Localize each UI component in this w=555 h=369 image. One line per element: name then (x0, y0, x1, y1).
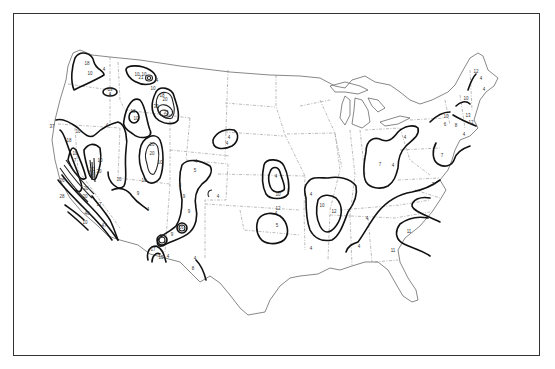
contour-label: 15 (159, 234, 165, 239)
contour-label: 47 (101, 223, 107, 228)
contour-label: 26 (59, 178, 65, 183)
contour-label: 17 (150, 247, 156, 252)
contour-label: 5 (276, 223, 279, 228)
contour-label: 10 (275, 192, 281, 197)
contour-label: 35 (163, 110, 169, 115)
contour-label: 10 (87, 71, 93, 76)
contour-lines (56, 53, 476, 280)
contour-label: 4 (392, 163, 395, 168)
contour-label: 30 (88, 171, 94, 176)
contour-label: 4 (147, 207, 150, 212)
contour-label: 20 (96, 169, 102, 174)
contour-label: 9 (171, 232, 174, 237)
contour-label: 40 (84, 211, 90, 216)
contour-label: 16 (178, 225, 184, 230)
contour-label: 10 (133, 116, 139, 121)
contour-label: 4 (228, 135, 231, 140)
contour-label: 10 (72, 151, 78, 156)
contour-label: 7 (379, 162, 382, 167)
contour-label: 12 (468, 120, 474, 125)
contour-label: 4 (156, 78, 159, 83)
contour-label: 5 (194, 168, 197, 173)
contour-label: 10 (463, 96, 469, 101)
contour-label: 4 (480, 76, 483, 81)
contour-label: 10 (150, 86, 156, 91)
contour-label: 11 (391, 248, 396, 253)
contour-label: 18 (66, 138, 72, 143)
contour-label: 4 (103, 67, 106, 72)
contour-label: 4 (275, 174, 278, 179)
contour-label: 10 (157, 160, 163, 165)
contour-label: 4 (358, 244, 361, 249)
contour-label: 12 (473, 69, 479, 74)
contour-label: 9 (183, 194, 186, 199)
contour-label: 15 (158, 255, 164, 260)
michigan-lower (352, 98, 370, 128)
contour-label: 10 (75, 129, 81, 134)
contour-label: 4 (217, 194, 220, 199)
contour-label: 17 (96, 202, 102, 207)
lake-erie (380, 116, 410, 126)
contour-label: 10 (97, 158, 103, 163)
contour-label: 4 (463, 132, 466, 137)
contour-label: 30 (153, 104, 159, 109)
contour-label: 13 (465, 113, 471, 118)
contour-label: 20 (149, 151, 155, 156)
contour-label: 20 (149, 142, 155, 147)
contour-label: 10 (116, 177, 122, 182)
contour-label: 4 (483, 87, 486, 92)
contour-label: 7 (441, 153, 444, 158)
contour-label: 8 (179, 183, 182, 188)
contour-label: 28 (59, 194, 65, 199)
contour-label: 18 (84, 61, 90, 66)
contour-label: 18 (130, 109, 136, 114)
contour-label: 4 (404, 135, 407, 140)
contour-label: 10 (141, 72, 147, 77)
contour-label: 10 (82, 220, 88, 225)
contour-label: 6 (444, 122, 447, 127)
lake-michigan (340, 96, 350, 125)
contour-label: 9 (188, 209, 191, 214)
contour-label: 20 (162, 97, 168, 102)
contour-label: 4 (226, 141, 229, 146)
contour-label: 4 (310, 246, 313, 251)
contour-label: 11 (407, 229, 412, 234)
contour-label: 12 (331, 209, 337, 214)
contour-label: 10 (443, 114, 449, 119)
contour-label: 7 (74, 158, 77, 163)
contour-labels: 1810410211041018203035194181037104181071… (49, 61, 485, 271)
contour-label: 8 (192, 266, 195, 271)
contour-label: 20 (82, 194, 88, 199)
contour-label: 37 (49, 124, 55, 129)
contour-label: 4 (167, 254, 170, 259)
us-contour-map: 1810410211041018203035194181037104181071… (0, 0, 555, 369)
lake-huron (368, 98, 385, 112)
contour-label: 10 (319, 203, 325, 208)
contour-label: 4 (310, 192, 313, 197)
contour-label: 9 (137, 191, 140, 196)
contour-label: 8 (455, 123, 458, 128)
contour-label: 20 (83, 186, 89, 191)
contour-label: 10 (141, 178, 147, 183)
